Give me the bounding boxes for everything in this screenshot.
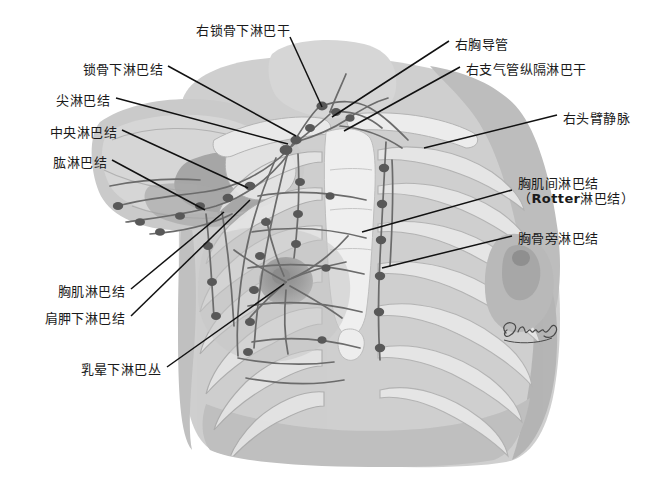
label-text: 胸骨旁淋巴结 — [518, 231, 598, 246]
label-text: 中央淋巴结 — [50, 125, 117, 140]
label-text: 尖淋巴结 — [56, 93, 110, 108]
paren-open: （ — [518, 191, 531, 206]
label-subareolar-plexus: 乳晕下淋巴丛 — [0, 362, 161, 377]
label-text: 胸肌淋巴结 — [58, 284, 125, 299]
paren-close: 淋巴结） — [580, 191, 634, 206]
label-central-lymph-nodes: 中央淋巴结 — [0, 125, 117, 140]
label-text: 右头臂静脉 — [563, 111, 630, 126]
label-interpectoral-rotter-nodes: 胸肌间淋巴结 （Rotter淋巴结） — [518, 176, 634, 206]
label-subscapular-lymph-nodes: 肩胛下淋巴结 — [0, 311, 125, 326]
label-subclavian-lymph-nodes: 锁骨下淋巴结 — [0, 62, 163, 77]
label-text: 肩胛下淋巴结 — [45, 311, 125, 326]
label-right-bronchomediastinal-trunk: 右支气管纵隔淋巴干 — [466, 62, 587, 77]
label-text: 乳晕下淋巴丛 — [81, 362, 161, 377]
label-right-brachiocephalic-vein: 右头臂静脉 — [563, 111, 630, 126]
label-subtext: （Rotter淋巴结） — [518, 191, 634, 206]
label-text: 右锁骨下淋巴干 — [196, 23, 290, 38]
label-text: 右胸导管 — [455, 37, 509, 52]
label-text: 右支气管纵隔淋巴干 — [466, 62, 587, 77]
label-right-thoracic-duct: 右胸导管 — [455, 37, 509, 52]
label-apical-lymph-nodes: 尖淋巴结 — [0, 93, 110, 108]
label-text: 胸肌间淋巴结 — [518, 176, 598, 191]
label-parasternal-lymph-nodes: 胸骨旁淋巴结 — [518, 231, 598, 246]
figure-canvas: 右锁骨下淋巴干 锁骨下淋巴结 尖淋巴结 中央淋巴结 肱淋巴结 胸肌淋巴结 肩胛下… — [0, 0, 652, 483]
nipple-right — [512, 250, 530, 266]
label-pectoral-lymph-nodes: 胸肌淋巴结 — [0, 284, 125, 299]
label-right-subclavian-trunk: 右锁骨下淋巴干 — [0, 23, 290, 38]
rotter-term: Rotter — [531, 191, 580, 206]
label-text: 锁骨下淋巴结 — [83, 62, 163, 77]
label-text: 肱淋巴结 — [53, 155, 107, 170]
label-brachial-lymph-nodes: 肱淋巴结 — [0, 155, 107, 170]
